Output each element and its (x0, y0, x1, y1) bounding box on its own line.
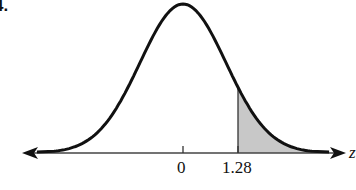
normal-curve (37, 4, 329, 152)
x-axis-label: z (349, 143, 356, 163)
tick-label-zero: 0 (177, 158, 186, 178)
shaded-tail-region (238, 87, 312, 153)
tick-label-1-28: 1.28 (222, 158, 252, 178)
